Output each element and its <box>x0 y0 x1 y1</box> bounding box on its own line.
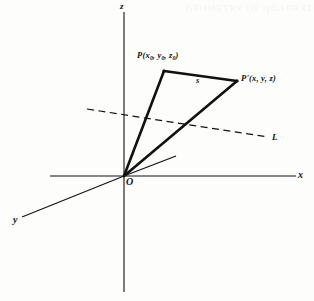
line-L-dashed <box>87 109 268 137</box>
point-p-sub-x: 0 <box>150 55 153 61</box>
y-axis-label: y <box>13 215 18 225</box>
rotation-diagram: GEOMETRY OF QUADRATICS z x y O P(x0, y0,… <box>0 0 314 301</box>
point-p-prime-label: P'(x, y, z) <box>241 74 276 83</box>
line-l-label: L <box>272 133 278 142</box>
vertex-dot-Pprime <box>235 79 238 82</box>
origin-label: O <box>126 177 133 187</box>
segment-P-to-Pprime <box>164 71 237 81</box>
x-axis-label: x <box>298 170 303 180</box>
z-axis-label: z <box>120 2 124 11</box>
point-p-sub-y: 0 <box>161 55 164 61</box>
segment-s-label: s <box>196 76 200 85</box>
point-p-label: P(x0, y0, z0) <box>137 51 178 61</box>
y-axis-line <box>22 176 124 217</box>
vertex-dot-P <box>162 69 165 72</box>
point-p-name: P <box>137 50 142 60</box>
diagram-canvas <box>0 0 314 301</box>
point-p-sub-z: 0 <box>172 55 175 61</box>
